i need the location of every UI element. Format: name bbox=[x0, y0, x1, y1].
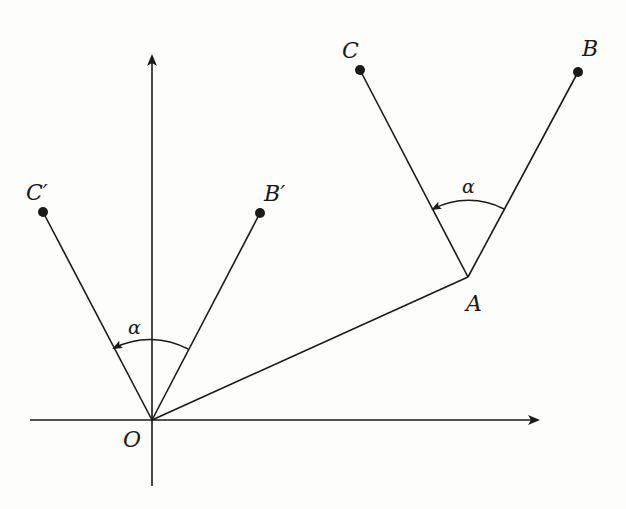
angle-label-at-A: α bbox=[462, 175, 475, 197]
angle-arc-at-A bbox=[433, 200, 504, 209]
angle-arc-at-O bbox=[114, 339, 188, 349]
label-A: A bbox=[464, 291, 482, 316]
angle-label-at-O: α bbox=[128, 316, 141, 338]
segment-AB bbox=[468, 72, 578, 277]
label-B-prime: B′ bbox=[263, 181, 285, 206]
label-O: O bbox=[123, 427, 141, 452]
segment-AC bbox=[360, 70, 468, 277]
segment-OB-prime bbox=[152, 213, 260, 420]
diagram-canvas: C B A O B′ C′ α α bbox=[0, 0, 626, 509]
label-C: C bbox=[342, 38, 359, 63]
point-C-dot bbox=[355, 65, 365, 75]
segment-OA bbox=[152, 277, 468, 420]
point-B-dot bbox=[573, 67, 583, 77]
label-C-prime: C′ bbox=[26, 180, 48, 205]
point-C-prime-dot bbox=[38, 207, 48, 217]
point-B-prime-dot bbox=[255, 208, 265, 218]
label-B: B bbox=[581, 36, 598, 61]
